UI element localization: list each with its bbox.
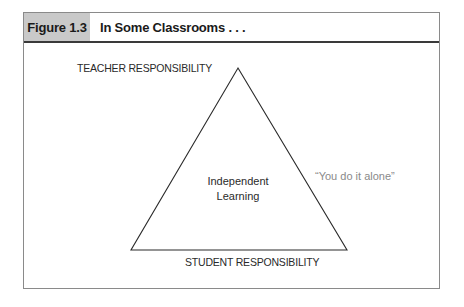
center-line-2: Learning [196,189,280,204]
independent-learning-label: Independent Learning [196,174,280,204]
center-line-1: Independent [196,174,280,189]
teacher-responsibility-label: TEACHER RESPONSIBILITY [77,62,212,74]
responsibility-triangle [131,68,347,250]
you-do-it-alone-quote: “You do it alone” [315,170,395,182]
student-responsibility-label: STUDENT RESPONSIBILITY [185,256,319,268]
